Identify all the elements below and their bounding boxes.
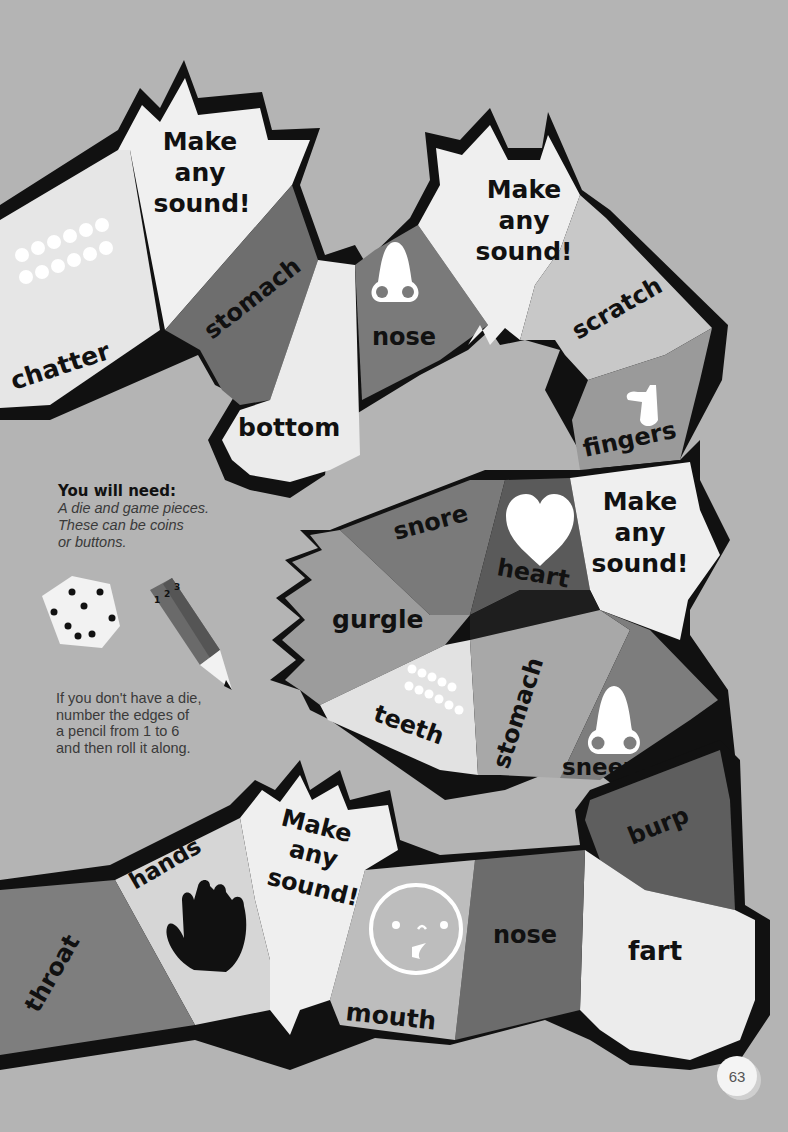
requirements-line: or buttons. — [58, 534, 258, 551]
svg-text:sound!: sound! — [592, 549, 689, 578]
tip-line: If you don't have a die, — [56, 690, 256, 707]
svg-text:Make: Make — [487, 175, 562, 204]
svg-text:Make: Make — [163, 127, 238, 156]
tip-line: and then roll it along. — [56, 740, 256, 757]
requirements-line: These can be coins — [58, 517, 258, 534]
svg-text:2: 2 — [164, 589, 170, 599]
svg-text:bottom: bottom — [238, 413, 340, 442]
page-number: 63 — [717, 1056, 757, 1096]
pencil-icon: 1 2 3 — [150, 578, 232, 690]
game-board: 1 2 3 chatter Make any sound! stomach bo… — [0, 0, 788, 1132]
svg-text:nose: nose — [493, 921, 557, 949]
die-icon — [42, 576, 120, 648]
svg-text:any: any — [499, 206, 550, 235]
svg-text:3: 3 — [174, 582, 180, 592]
requirements-line: A die and game pieces. — [58, 500, 258, 517]
tip-line: number the edges of — [56, 707, 256, 724]
svg-text:sound!: sound! — [154, 189, 251, 218]
svg-text:gurgle: gurgle — [332, 605, 423, 634]
svg-text:any: any — [175, 158, 226, 187]
svg-text:1: 1 — [154, 595, 160, 605]
tip-line: a pencil from 1 to 6 — [56, 723, 256, 740]
svg-text:nose: nose — [372, 323, 436, 351]
svg-text:sound!: sound! — [476, 237, 573, 266]
svg-text:any: any — [615, 518, 666, 547]
svg-text:sneeze: sneeze — [562, 754, 652, 780]
svg-text:Make: Make — [603, 487, 678, 516]
requirements-panel: You will need: A die and game pieces. Th… — [58, 482, 258, 551]
pencil-tip: If you don't have a die, number the edge… — [56, 690, 256, 756]
svg-text:fart: fart — [628, 936, 682, 966]
requirements-heading: You will need: — [58, 482, 258, 500]
